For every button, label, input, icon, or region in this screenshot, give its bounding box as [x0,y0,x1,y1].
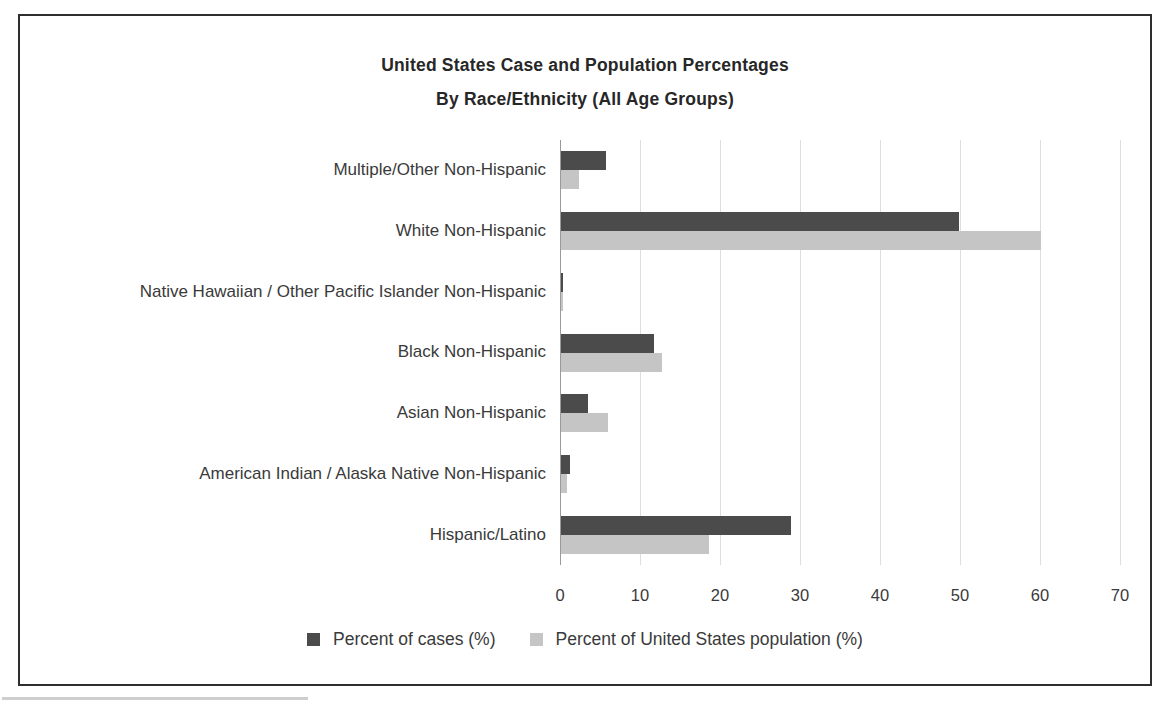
scan-artifact [2,697,308,700]
bar-cases [561,394,588,413]
bar-population [561,170,579,189]
category-label: Native Hawaiian / Other Pacific Islander… [0,261,546,322]
bar-population [561,353,662,372]
category-label: Hispanic/Latino [0,504,546,565]
bar-population [561,474,567,493]
category-label: White Non-Hispanic [0,201,546,262]
category-label: Asian Non-Hispanic [0,383,546,444]
bar-cases [561,455,570,474]
x-tick-label: 20 [711,586,729,605]
gridline [800,140,801,565]
legend-label: Percent of United States population (%) [556,629,863,650]
bar-cases [561,334,654,353]
gridline [720,140,721,565]
bar-cases [561,151,606,170]
legend-swatch-population [530,633,543,646]
x-tick-label: 0 [555,586,564,605]
category-labels: Multiple/Other Non-HispanicWhite Non-His… [0,140,546,565]
bar-population [561,535,709,554]
category-label: Multiple/Other Non-Hispanic [0,140,546,201]
x-axis-ticks: 010203040506070 [560,586,1121,608]
bar-cases [561,212,959,231]
x-tick-label: 60 [1031,586,1049,605]
legend: Percent of cases (%)Percent of United St… [18,629,1152,650]
legend-item: Percent of cases (%) [307,629,495,650]
legend-swatch-cases [307,633,320,646]
x-tick-label: 40 [871,586,889,605]
plot-area [560,140,1121,565]
legend-label: Percent of cases (%) [333,629,495,650]
x-tick-label: 30 [791,586,809,605]
scanned-chart-page: United States Case and Population Percen… [0,0,1164,705]
x-tick-label: 10 [631,586,649,605]
chart-title: United States Case and Population Percen… [18,48,1152,116]
gridline [1120,140,1121,565]
gridline [1040,140,1041,565]
category-label: Black Non-Hispanic [0,322,546,383]
legend-item: Percent of United States population (%) [530,629,863,650]
x-tick-label: 70 [1111,586,1129,605]
gridline [880,140,881,565]
bar-population [561,231,1041,250]
bar-cases [561,273,563,292]
bar-population [561,413,608,432]
chart-title-line1: United States Case and Population Percen… [18,48,1152,82]
bar-cases [561,516,791,535]
gridline [960,140,961,565]
category-label: American Indian / Alaska Native Non-Hisp… [0,444,546,505]
bar-population [561,292,563,311]
chart-title-line2: By Race/Ethnicity (All Age Groups) [18,82,1152,116]
x-tick-label: 50 [951,586,969,605]
